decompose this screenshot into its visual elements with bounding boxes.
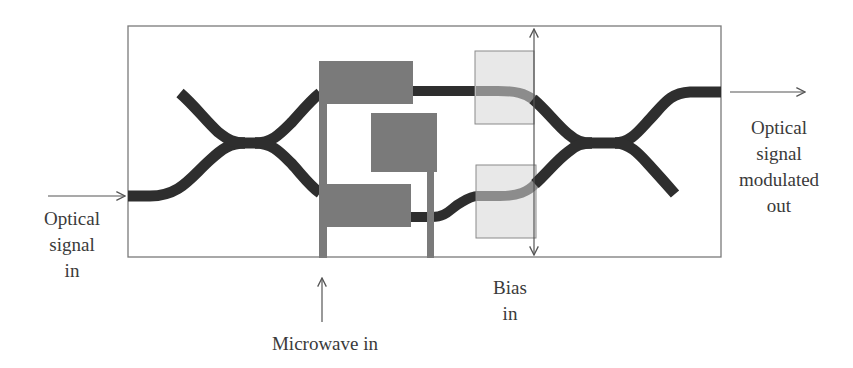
label-line: in	[32, 258, 112, 284]
input-coupler	[128, 93, 320, 196]
bias-electrode-bottom	[476, 165, 536, 238]
label-line: out	[724, 193, 834, 219]
output-coupler	[533, 92, 721, 194]
rf-feed-right	[427, 172, 434, 258]
lower-arm-waveguide	[405, 196, 478, 217]
label-line: signal	[724, 141, 834, 167]
rf-electrode-middle	[371, 113, 437, 172]
rf-electrode-bottom	[319, 184, 411, 227]
label-line: Bias	[480, 275, 540, 301]
label-line: in	[480, 301, 540, 327]
rf-feed-left	[319, 104, 327, 258]
microwave-in-label: Microwave in	[250, 331, 400, 357]
label-line: Optical	[32, 206, 112, 232]
label-line: modulated	[724, 167, 834, 193]
rf-electrode-top	[319, 61, 413, 104]
bias-in-label: Bias in	[480, 275, 540, 327]
optical-signal-out-label: Optical signal modulated out	[724, 115, 834, 219]
optical-signal-in-label: Optical signal in	[32, 206, 112, 284]
label-line: signal	[32, 232, 112, 258]
label-line: Optical	[724, 115, 834, 141]
